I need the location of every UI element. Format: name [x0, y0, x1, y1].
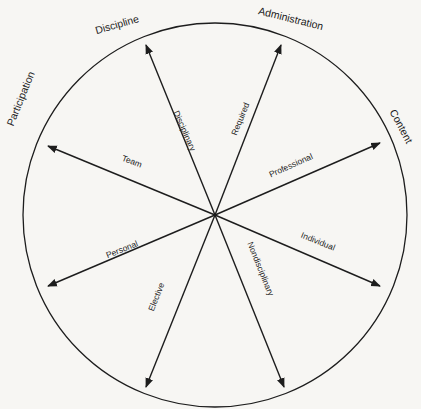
- nondisciplinary-label: Nondisciplinary: [245, 240, 276, 298]
- radial-diagram: DisciplinaryRequiredProfessionalTeamPers…: [0, 0, 421, 409]
- required-arrow: [215, 45, 281, 215]
- individual-label: Individual: [300, 230, 337, 253]
- disciplinary-label: Disciplinary: [171, 109, 198, 153]
- discipline-outer-label: Discipline: [94, 12, 141, 36]
- professional-arrow: [215, 143, 380, 215]
- participation-outer-label: Participation: [4, 69, 37, 127]
- elective-label: Elective: [146, 281, 167, 313]
- personal-label: Personal: [104, 238, 139, 260]
- team-label: Team: [121, 153, 144, 170]
- administration-outer-label: Administration: [257, 4, 325, 32]
